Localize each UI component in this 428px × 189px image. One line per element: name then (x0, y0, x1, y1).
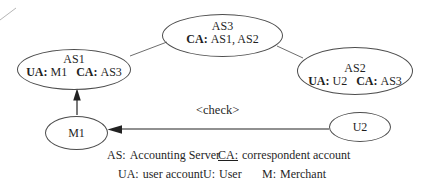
node-as3-text: AS3 CA:AS1, AS2 (186, 20, 258, 46)
ua-value: U2 (332, 74, 347, 88)
node-as1: AS1 UA:M1 CA:AS3 (17, 49, 131, 90)
ca-value: AS1, AS2 (211, 32, 259, 46)
node-m1: M1 (45, 116, 108, 150)
node-as2-ua-pair: UA:U2 (308, 75, 347, 88)
edge-m1-as1-arrowhead-icon (73, 89, 81, 101)
node-as3-ca-pair: CA:AS1, AS2 (186, 33, 258, 46)
legend-definition: correspondent account (242, 148, 350, 162)
check-edge-label: <check> (196, 104, 239, 117)
ca-value: AS3 (100, 65, 121, 79)
node-as2: AS2 UA:U2 CA:AS3 (297, 47, 413, 95)
edge-as1-as3 (130, 42, 167, 56)
legend-term: AS: (107, 148, 126, 162)
ua-label: UA: (308, 74, 329, 88)
node-u2: U2 (329, 112, 391, 142)
node-as1-text: AS1 UA:M1 CA:AS3 (26, 53, 122, 79)
diagram-canvas: AS1 UA:M1 CA:AS3 AS3 CA:AS1, AS2 AS2 UA:… (0, 0, 428, 189)
legend-definition: Accounting Server (130, 148, 220, 162)
legend-merchant: M:Merchant (262, 168, 326, 180)
node-as1-ca-pair: CA:AS3 (76, 66, 122, 79)
legend-correspondent-account: CA:correspondent account (218, 149, 350, 161)
ua-label: UA: (26, 65, 47, 79)
legend-user: U:User (203, 168, 242, 180)
ca-value: AS3 (380, 74, 401, 88)
node-as1-accounts: UA:M1 CA:AS3 (26, 66, 122, 79)
corner-artifact-line (0, 8, 16, 20)
legend-definition: Merchant (280, 167, 326, 181)
edge-u2-m1-arrowhead-icon (108, 125, 123, 133)
ua-value: M1 (50, 65, 67, 79)
ca-label: CA: (186, 32, 207, 46)
ca-label: CA: (76, 65, 97, 79)
node-as3-accounts: CA:AS1, AS2 (186, 33, 258, 46)
node-m1-title: M1 (68, 127, 85, 140)
legend-term: UA: (118, 167, 139, 181)
node-as1-ua-pair: UA:M1 (26, 66, 67, 79)
legend-user-account: UA:user account (118, 168, 203, 180)
node-u2-title: U2 (353, 121, 368, 134)
legend-term: M: (262, 167, 276, 181)
edge-as3-as2 (277, 46, 303, 58)
ca-label: CA: (356, 74, 377, 88)
legend-term: U: (203, 167, 215, 181)
node-as2-ca-pair: CA:AS3 (356, 75, 402, 88)
node-as2-text: AS2 UA:U2 CA:AS3 (308, 62, 402, 88)
legend-definition: user account (143, 167, 203, 181)
legend-accounting-server: AS:Accounting Server (107, 149, 220, 161)
legend-term: CA: (218, 148, 238, 162)
legend-definition: User (219, 167, 242, 181)
node-as2-accounts: UA:U2 CA:AS3 (308, 75, 402, 88)
node-as3: AS3 CA:AS1, AS2 (162, 14, 283, 57)
